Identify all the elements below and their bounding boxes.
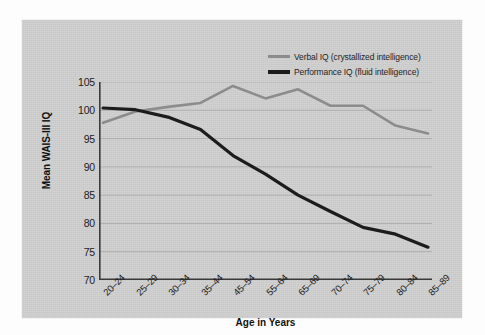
chart-legend: Verbal IQ (crystallized intelligence) Pe…: [268, 50, 458, 80]
legend-label-verbal: Verbal IQ (crystallized intelligence): [294, 52, 421, 62]
y-tick-label: 100: [69, 104, 95, 116]
figure-root: Verbal IQ (crystallized intelligence) Pe…: [0, 0, 485, 335]
gridlines: [100, 82, 432, 252]
legend-label-performance: Performance IQ (fluid intelligence): [294, 67, 419, 77]
x-axis-title: Age in Years: [99, 317, 432, 328]
plot-area: [99, 82, 432, 280]
y-tick-label: 70: [69, 274, 95, 286]
series-line-verbal-iq: [103, 86, 428, 134]
legend-item-performance: Performance IQ (fluid intelligence): [268, 65, 458, 78]
y-tick-label: 80: [69, 217, 95, 229]
legend-swatch-verbal-line: [268, 55, 290, 58]
chart-svg: [99, 82, 432, 280]
y-axis-tick-labels: 707580859095100105: [65, 82, 95, 280]
series-line-performance-iq: [103, 108, 428, 247]
y-tick-label: 90: [69, 161, 95, 173]
y-tick-label: 95: [69, 133, 95, 145]
legend-swatch-performance-line: [268, 70, 290, 74]
y-tick-label: 85: [69, 189, 95, 201]
chart-card: Verbal IQ (crystallized intelligence) Pe…: [22, 20, 462, 318]
y-tick-label: 105: [69, 76, 95, 88]
y-tick-label: 75: [69, 246, 95, 258]
legend-item-verbal: Verbal IQ (crystallized intelligence): [268, 50, 458, 63]
y-axis-title: Mean WAIS-III IQ: [41, 96, 52, 206]
